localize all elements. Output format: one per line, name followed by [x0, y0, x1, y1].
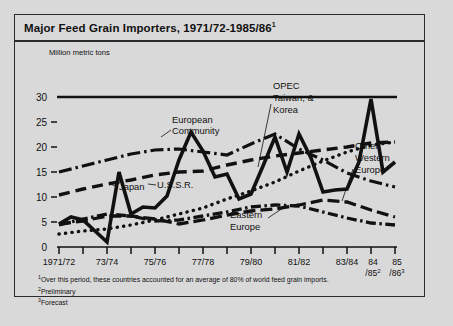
x-tick-label: 77/78 [192, 257, 215, 267]
label-other-western-europe: Other Western Europe [342, 140, 390, 201]
series-label-line: Japan [119, 181, 145, 192]
footnote-text: Preliminary [41, 288, 75, 295]
leader-line-european-community [161, 130, 171, 137]
footnote-2: 2Preliminary [38, 285, 418, 297]
series-ussr [59, 99, 395, 242]
x-tick-label-84: 84 [368, 257, 378, 267]
label-eastern-europe: Eastern Europe [230, 208, 283, 232]
series-japan [59, 142, 395, 195]
line-chart-svg: 30 25 20 15 10 5 0 [15, 42, 424, 296]
x-tick-label: 79/80 [240, 257, 263, 267]
footnote-text: Over this period, these countries accoun… [41, 276, 329, 283]
x-tick-label: 73/74 [96, 257, 119, 267]
y-tick-label: 5 [41, 217, 47, 228]
series-label-line: Other [355, 140, 378, 151]
leader-line-ussr [148, 184, 156, 185]
x-tick-label: 81/82 [288, 257, 311, 267]
screenshot-root: Major Feed Grain Importers, 1971/72-1985… [0, 0, 453, 326]
plot-area: 30 25 20 15 10 5 0 [15, 42, 424, 296]
series-label-line: Western [355, 152, 390, 163]
title-bar: Major Feed Grain Importers, 1971/72-1985… [15, 15, 424, 42]
series-label-line: Korea [273, 104, 299, 115]
series-label-line: OPEC [273, 80, 300, 91]
x-tick-label: 83/84 [336, 257, 359, 267]
series-label-line: Europe [230, 221, 260, 232]
footnote-3: 3Forecast [38, 296, 418, 308]
series-label-line: European [172, 114, 213, 125]
label-european-community: European Community [161, 114, 220, 137]
y-axis-labels: 30 25 20 15 10 5 0 [36, 92, 48, 253]
label-ussr: U.S.S.R. [148, 179, 193, 190]
page-title: Major Feed Grain Importers, 1971/72-1985… [24, 21, 276, 34]
series-label-line: Eastern [230, 209, 262, 220]
y-axis-ticks [51, 122, 57, 222]
chart-title-superscript: 1 [272, 21, 276, 28]
chart-title-text: Major Feed Grain Importers, 1971/72-1985… [24, 22, 272, 34]
x-tick-label: 75/76 [144, 257, 167, 267]
x-axis-ticks [59, 247, 395, 254]
chart-card: Major Feed Grain Importers, 1971/72-1985… [14, 14, 425, 297]
y-tick-label: 10 [36, 192, 48, 203]
y-tick-label: 20 [36, 142, 48, 153]
series-european-community [59, 134, 395, 187]
x-tick-label: 1971/72 [43, 257, 76, 267]
footnotes: 1Over this period, these countries accou… [38, 273, 418, 308]
y-tick-label: 15 [36, 167, 48, 178]
series-label-line: U.S.S.R. [157, 179, 193, 190]
y-tick-label: 25 [36, 117, 48, 128]
series-label-line: Community [172, 125, 220, 136]
y-tick-label: 30 [36, 92, 48, 103]
footnote-text: Forecast [41, 299, 68, 306]
x-tick-label-85: 85 [392, 257, 402, 267]
series-label-line: Europe [355, 164, 385, 175]
footnote-1: 1Over this period, these countries accou… [38, 273, 418, 285]
y-tick-label: 0 [41, 242, 47, 253]
series-label-line: Taiwan, & [273, 92, 314, 103]
